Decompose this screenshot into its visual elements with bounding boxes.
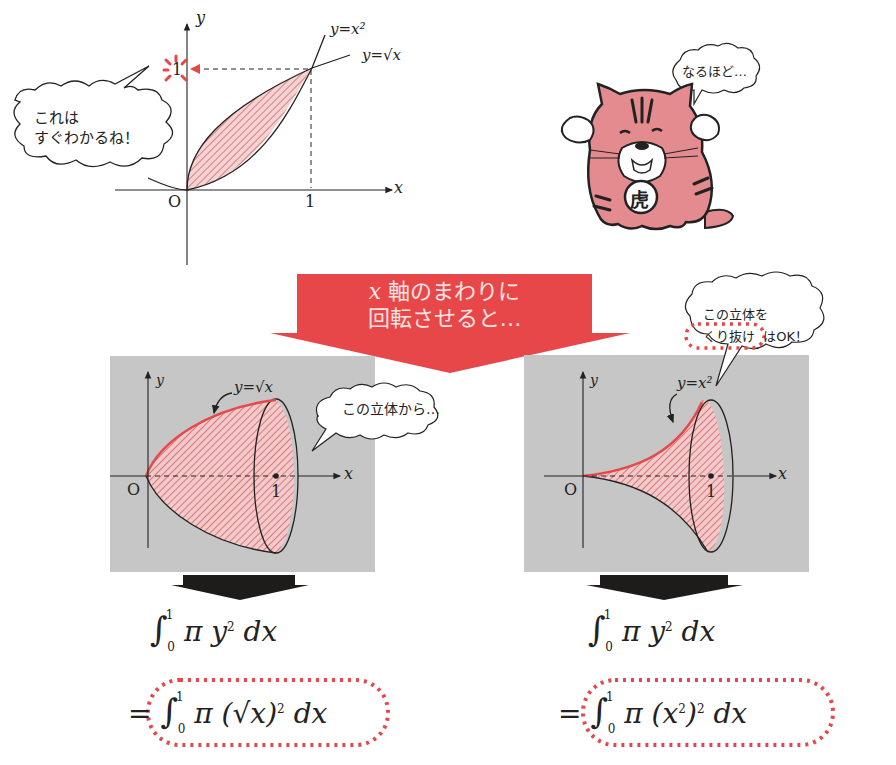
dx: dx (294, 697, 328, 730)
upper-limit: 1 (176, 690, 184, 704)
mascot-speech: なるほど… (682, 62, 747, 82)
right-bubble-text: この立体を くり抜け はOK！ (703, 304, 808, 348)
lower-limit: 0 (167, 640, 175, 654)
rotate-arrow-text: x 軸のまわりに 回転させると… (297, 278, 592, 332)
bubble-top-left-text: これは すぐわかるね！ (34, 108, 139, 148)
left-axis-x-label: x (344, 464, 353, 483)
right-formula-2: = ∫10 π (x2)2 dx (558, 690, 747, 736)
right-formula-1: ∫10 π y2 dx (588, 608, 715, 654)
pi-symbol: π (184, 615, 202, 648)
left-panel-graphic (110, 356, 438, 600)
rotate-axis-var: x (369, 279, 381, 304)
exponent: 2 (227, 620, 235, 634)
rotate-line1: 軸のまわりに (388, 279, 520, 304)
x-squared-close: ) (686, 697, 697, 730)
left-axis-y-label: y (156, 372, 164, 388)
right-origin-label: O (564, 480, 577, 499)
top-x-tick-label: 1 (305, 192, 315, 211)
left-curve-label: y=√x (234, 378, 273, 396)
var-y: y (211, 615, 227, 648)
dx: dx (682, 615, 716, 648)
top-axis-y-label: y (196, 8, 205, 27)
x-squared-open: (x (652, 697, 679, 730)
left-formula-1: ∫10 π y2 dx (150, 608, 277, 654)
right-axis-x-label: x (778, 464, 787, 483)
left-origin-label: O (127, 480, 140, 499)
pi-symbol: π (194, 697, 212, 730)
lower-limit: 0 (178, 722, 186, 736)
upper-limit: 1 (606, 690, 614, 704)
sqrt-x-term: (√x) (222, 697, 277, 730)
right-bubble-line1: この立体を (703, 304, 808, 326)
curve-label-sqrt-x: y=√x (362, 46, 401, 64)
curve-label-x-squared: y=x² (330, 20, 366, 38)
left-bubble-text: この立体から… (342, 399, 440, 419)
right-bubble-rest: はOK！ (763, 329, 808, 344)
exponent: 2 (697, 702, 705, 716)
lower-limit: 0 (608, 722, 616, 736)
bubble-top-left-line2: すぐわかるね！ (34, 128, 139, 148)
right-axis-y-label: y (590, 372, 598, 388)
upper-limit: 1 (166, 608, 174, 622)
left-x-tick-label: 1 (271, 482, 281, 501)
pi-symbol: π (622, 615, 640, 648)
dx: dx (244, 615, 278, 648)
right-bubble-highlight: くり抜け (703, 329, 755, 344)
bubble-top-left-line1: これは (34, 108, 139, 128)
rotate-line2: 回転させると… (297, 305, 592, 332)
equals-sign: = (558, 697, 581, 730)
exponent: 2 (277, 702, 285, 716)
inner-exponent: 2 (678, 702, 686, 716)
pi-symbol: π (624, 697, 642, 730)
var-y: y (649, 615, 665, 648)
right-curve-label: y=x² (677, 374, 713, 392)
right-x-tick-label: 1 (706, 482, 716, 501)
mascot-badge-char: 虎 (630, 185, 649, 212)
top-y-tick-label: 1 (172, 60, 182, 79)
upper-limit: 1 (604, 608, 612, 622)
top-axis-x-label: x (394, 178, 403, 197)
equals-sign: = (128, 697, 151, 730)
lower-limit: 0 (605, 640, 613, 654)
dx: dx (713, 697, 747, 730)
top-origin-label: O (168, 192, 181, 211)
exponent: 2 (665, 620, 673, 634)
left-formula-2: = ∫10 π (√x)2 dx (128, 690, 327, 736)
